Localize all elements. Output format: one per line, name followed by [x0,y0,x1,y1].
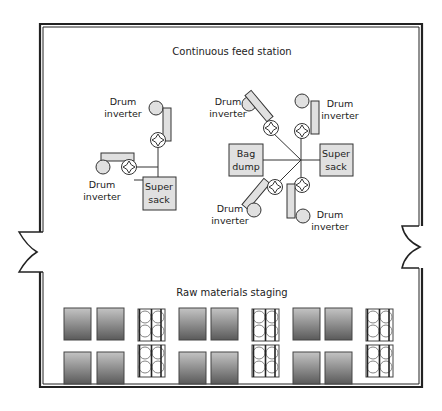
drum-icon [247,203,261,217]
feed-station-title: Continuous feed station [172,46,291,57]
label: inverter [104,108,142,119]
tote [179,308,206,340]
tote [64,352,91,384]
left-door [19,232,43,272]
tote [293,308,320,340]
tote [293,352,320,384]
tote [325,308,352,340]
label: Drum [327,98,354,109]
tote [211,352,238,384]
label: sack [148,194,170,205]
right-door [402,226,420,268]
drum-icon [149,101,163,115]
tote [64,308,91,340]
label: Drum [217,203,244,214]
right-feed-station: Bag dump Super sack Drum inverter Drum i… [209,90,359,232]
tote [325,352,352,384]
label: inverter [83,191,121,202]
label: Super [322,148,350,159]
tote [97,308,124,340]
label: Drum [215,96,242,107]
label: dump [232,161,259,172]
label: inverter [321,110,359,121]
label: Bag [237,148,255,159]
label: Drum [317,209,344,220]
tote [97,352,124,384]
drum-icon [96,160,110,174]
label: Super [145,181,173,192]
label: inverter [209,108,247,119]
drum-icon [296,209,310,223]
label: Drum [89,179,116,190]
label: inverter [211,215,249,226]
label: sack [325,161,347,172]
label: inverter [311,221,349,232]
floor-plan-diagram: Continuous feed station Drum inverter Dr… [0,0,442,411]
tote [179,352,206,384]
drum-icon [295,94,309,108]
tote [211,308,238,340]
left-feed-station: Drum inverter Drum inverter Super sack [83,96,176,210]
label: Drum [110,96,137,107]
raw-materials-staging [64,308,393,384]
staging-title: Raw materials staging [176,287,287,298]
